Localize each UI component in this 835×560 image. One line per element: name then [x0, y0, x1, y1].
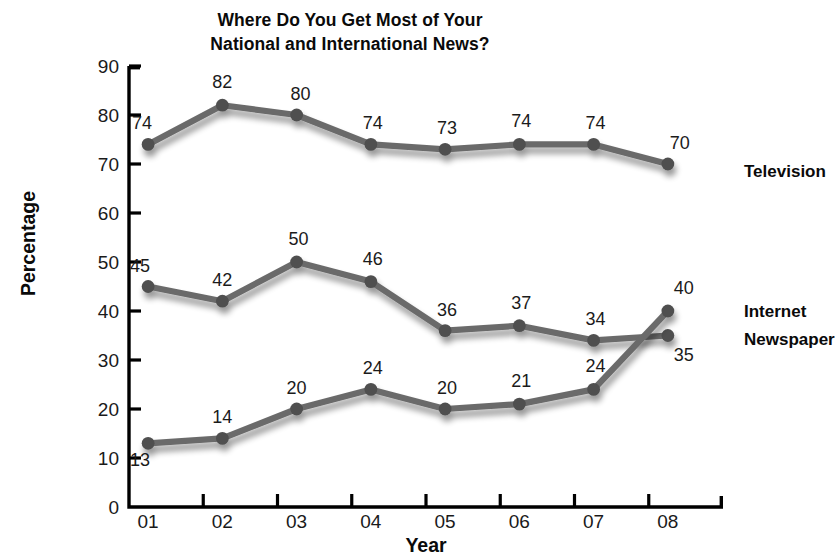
data-label: 14	[195, 408, 249, 426]
chart-title-line-1: Where Do You Get Most of Your	[0, 8, 700, 32]
chart-title: Where Do You Get Most of Your National a…	[0, 8, 700, 56]
data-label: 40	[657, 279, 711, 297]
series-label-newspaper: Newspaper	[744, 330, 835, 350]
data-label: 20	[270, 379, 324, 397]
series-label-internet: Internet	[744, 302, 806, 322]
y-axis-tick-label: 80	[79, 106, 119, 125]
y-axis-tick-label: 70	[79, 155, 119, 174]
data-label: 70	[653, 134, 707, 152]
x-axis-tick-label: 01	[126, 512, 170, 531]
y-axis-tick-label: 30	[79, 351, 119, 370]
x-axis-tick-label: 02	[200, 512, 244, 531]
y-axis-tick-label: 90	[79, 57, 119, 76]
data-label: 35	[657, 346, 711, 364]
y-axis-title: Percentage	[17, 154, 40, 334]
data-label: 74	[346, 114, 400, 132]
data-label: 34	[569, 310, 623, 328]
series-label-television: Television	[744, 162, 826, 182]
data-label: 36	[420, 301, 474, 319]
data-label: 42	[195, 271, 249, 289]
x-axis-tick-label: 05	[423, 512, 467, 531]
y-axis-tick-label: 0	[79, 498, 119, 517]
data-label: 74	[115, 114, 169, 132]
y-axis-tick-label: 20	[79, 400, 119, 419]
data-label: 20	[420, 379, 474, 397]
y-axis-tick-labels: 0102030405060708090	[75, 66, 119, 507]
data-label: 24	[346, 359, 400, 377]
y-axis-tick-label: 60	[79, 204, 119, 223]
data-label: 82	[195, 73, 249, 91]
x-axis-tick-label: 03	[275, 512, 319, 531]
data-label: 50	[272, 230, 326, 248]
x-axis-tick-label: 06	[497, 512, 541, 531]
x-axis-title: Year	[129, 534, 723, 557]
y-axis-tick-label: 40	[79, 302, 119, 321]
data-label: 46	[346, 250, 400, 268]
data-label: 24	[569, 357, 623, 375]
data-label: 13	[113, 451, 167, 469]
series-television	[142, 99, 675, 171]
chart-title-line-2: National and International News?	[0, 32, 700, 56]
data-label: 21	[494, 372, 548, 390]
data-label: 37	[494, 294, 548, 312]
x-axis-tick-label: 08	[646, 512, 690, 531]
x-axis-tick-label: 07	[572, 512, 616, 531]
x-axis-tick-labels: 0102030405060708	[129, 512, 723, 536]
data-label: 74	[569, 114, 623, 132]
x-axis-tick-label: 04	[349, 512, 393, 531]
data-label: 80	[274, 85, 328, 103]
data-label: 73	[420, 119, 474, 137]
data-label: 45	[113, 257, 167, 275]
data-label: 74	[494, 112, 548, 130]
